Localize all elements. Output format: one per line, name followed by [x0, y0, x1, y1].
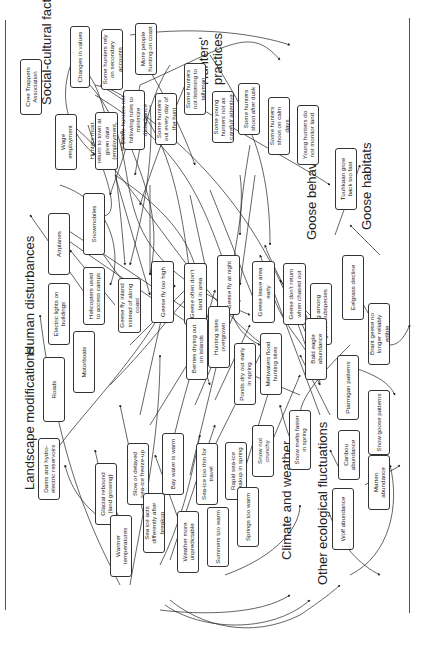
node-dont-land: Geese often don't land in area [184, 263, 207, 325]
node-changes-values: Changes in values [70, 26, 90, 88]
node-sites-overgrown: Hunting sites overgrown [208, 306, 230, 368]
node-sea-ice-acts: Sea ice acts differently after breakup [143, 493, 165, 553]
node-hunters-return: Hunters must return to town at given dat… [95, 112, 118, 170]
node-helicopters: Helicopters used to access camps [83, 267, 105, 325]
node-tuuhkaan: Tuuhkaan grow back too fast [335, 148, 357, 210]
node-snow-goose: Snow goose patterns [368, 390, 390, 455]
group-title-goose-habitats: Goose habitats [360, 143, 374, 230]
node-brant-geese: Brant geese no longer reliably edible [368, 303, 390, 365]
node-motorboats: Motorboats [73, 331, 95, 393]
node-wolf: Wolf abundance [332, 488, 354, 550]
node-caribou: Caribou abundance [338, 430, 360, 480]
node-cree-trappers: Cree Trappers Association [20, 59, 42, 115]
group-title-other-ecological: Other ecological fluctuations [316, 422, 330, 585]
group-title-human-disturbances: Human disturbances [23, 236, 37, 355]
node-not-listening-tallyman: Some hunters not listening to tallyman [184, 63, 206, 115]
node-fly-inland: Geese fly inland instead of along coast [118, 278, 141, 333]
node-electric-lights: Electric lights on buildings [48, 283, 70, 345]
group-title-social-cultural: Social-cultural factors [40, 0, 54, 105]
node-bay-warm: Bay water is warm [162, 433, 184, 495]
node-berries-drying: Berries drying out on islands [186, 318, 208, 380]
node-secondary-accounts: Some hunters rely on secondary accounts [101, 29, 123, 90]
group-title-landscape-modifications: Landscape modifications [23, 347, 37, 490]
node-marten: Marten abundance [368, 455, 390, 510]
node-dams: Dams and hydro-electric reservoirs [38, 438, 60, 500]
node-young-not-careful: Some young hunters not as careful/ atten… [212, 91, 234, 143]
node-snow-not-crunchy: Snow not crunchy [252, 425, 274, 477]
node-snow-melts: Snow melts faster in spring [289, 410, 311, 470]
node-more-people-coast: More people hunting on coast [135, 23, 157, 75]
node-bald-eagle: Bald eagle abundance [305, 318, 327, 380]
node-snowmobiles: Snowmobiles [83, 193, 105, 255]
node-leave-early: Geese leave area early [252, 261, 275, 323]
node-dont-return: Geese don't return when chased out [283, 263, 306, 325]
node-summers-warm: Summers too warm [207, 507, 229, 567]
node-shoot-after-dusk: Some hunters shoot after dusk [238, 83, 260, 135]
node-meltwaters-flood: Meltwaters flood hunting sites [260, 333, 282, 395]
node-out-every-day: Some hunters out every day of the hunt [155, 93, 177, 145]
node-ponds-dry: Ponds dry out early in spring [234, 343, 256, 405]
node-springs-warm: Springs too warm [237, 487, 259, 547]
node-weather-unpredictable: Weather more unpredictable [177, 511, 199, 573]
node-fly-too-high: Geese fly too high [151, 261, 174, 323]
node-wage-employment: Wage employment [55, 114, 77, 170]
node-young-not-monitor: Young hunters do not monitor land [297, 105, 319, 165]
node-not-following-rules: Some hunters not following rules to mini… [123, 90, 145, 150]
causal-loop-diagram: Social-cultural factors Hunters' practic… [0, 0, 423, 645]
node-ptarmigan: Ptarmigan patterns [337, 355, 359, 420]
node-roads: Roads [43, 357, 65, 422]
node-airplanes: Airplanes [48, 213, 70, 275]
node-warmer-temps: Warmer temperatures [110, 515, 132, 577]
node-sea-ice-thin: Sea-ice too thin for travel [196, 443, 218, 505]
node-eelgrass: Eelgrass decline [342, 255, 364, 320]
node-shoot-calm-days: Some hunters shoot on calm days [268, 97, 290, 155]
